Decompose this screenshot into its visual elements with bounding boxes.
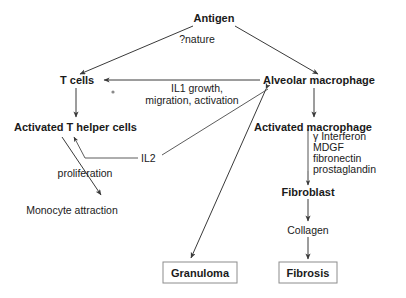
node-fibrosis: Fibrosis bbox=[287, 267, 330, 279]
edge-granuloma-alveolar-macrophage bbox=[191, 89, 266, 258]
edge-label-proliferation: proliferation bbox=[58, 167, 113, 179]
node-activated-t-helper-cells: Activated T helper cells bbox=[14, 121, 137, 133]
edge-label-il1-line2: migration, activation bbox=[145, 94, 239, 106]
edge-antigen-to-alveolar-macrophage bbox=[235, 26, 318, 74]
edge-label-il1-line1: IL1 growth, bbox=[171, 82, 223, 94]
node-antigen: Antigen bbox=[194, 12, 235, 24]
edge-label-il2: IL2 bbox=[141, 152, 156, 164]
node-fibroblast: Fibroblast bbox=[281, 186, 335, 198]
node-t-cells: T cells bbox=[60, 74, 94, 86]
node-antigen-note: ?nature bbox=[179, 33, 215, 45]
edge-il2-to-activated-t-helper-cells bbox=[74, 137, 138, 158]
node-collagen: Collagen bbox=[287, 224, 329, 236]
il1-annotation-dot bbox=[111, 90, 114, 93]
edge-activated-t-helper-cells-to-monocyte-attraction bbox=[62, 137, 101, 195]
node-alveolar-macrophage: Alveolar macrophage bbox=[263, 74, 375, 86]
flow-diagram-canvas: Antigen ?nature T cells Alveolar macroph… bbox=[0, 0, 406, 298]
edge-antigen-to-tcells bbox=[80, 26, 193, 74]
flow-diagram: Antigen ?nature T cells Alveolar macroph… bbox=[0, 0, 406, 298]
node-granuloma: Granuloma bbox=[171, 267, 230, 279]
mediator-item-3: prostaglandin bbox=[313, 163, 376, 175]
node-monocyte-attraction: Monocyte attraction bbox=[26, 204, 118, 216]
